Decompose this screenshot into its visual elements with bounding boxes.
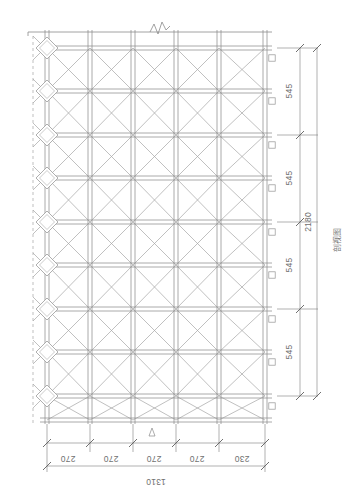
connector-brackets [269,55,275,409]
dim-230: 230 [235,454,250,464]
diagonal-bracing [47,48,265,420]
outer-outline [28,32,272,36]
right-dimension-labels: 545 545 545 545 2180 [284,84,313,360]
dim-total-1310: 1310 [146,477,166,487]
dim-270-1: 270 [61,454,76,464]
dim-545-3: 545 [284,258,294,273]
truss-frame [28,30,272,424]
drawing-title: 剖视图 [332,228,342,252]
truss-elevation-drawing: 545 545 545 545 2180 剖视图 270 270 27 [0,0,362,494]
bottom-break-marker [149,428,155,436]
cad-drawing-canvas: 545 545 545 545 2180 剖视图 270 270 27 [0,0,362,494]
dim-545-4: 545 [284,345,294,360]
dim-545-2: 545 [284,171,294,186]
horizontal-ledgers [40,46,272,422]
dim-270-4: 270 [190,454,205,464]
dim-270-3: 270 [147,454,162,464]
dim-545-1: 545 [284,84,294,99]
node-plates [36,37,58,407]
dim-270-2: 270 [104,454,119,464]
dim-total-2180: 2180 [303,212,313,232]
bottom-dimension-labels: 270 270 270 270 230 1310 [61,454,250,487]
